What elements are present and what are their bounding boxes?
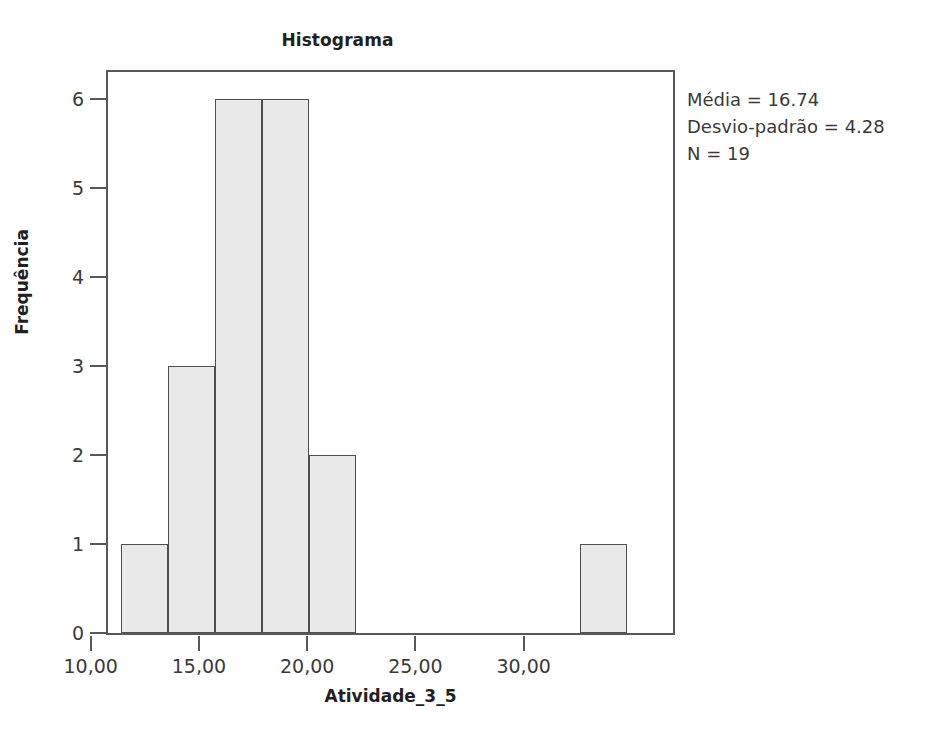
- histogram-figure: Histograma Frequência 0123456 Atividade_…: [0, 0, 927, 741]
- plot-area: [108, 72, 673, 633]
- y-axis-title: Frequência: [12, 182, 32, 382]
- x-axis-tick: [414, 636, 416, 651]
- y-axis-tick: [90, 543, 106, 545]
- x-axis-tick: [306, 636, 308, 651]
- y-axis-tick: [90, 454, 106, 456]
- y-axis-tick-label: 0: [50, 622, 84, 644]
- page-title: Histograma: [0, 30, 675, 50]
- y-axis-tick-label: 3: [50, 355, 84, 377]
- statistics-legend: Média = 16.74 Desvio-padrão = 4.28 N = 1…: [687, 86, 922, 167]
- y-axis-labels: 0123456: [40, 0, 84, 741]
- histogram-bar: [121, 544, 168, 633]
- y-axis-tick: [90, 187, 106, 189]
- histogram-bar: [580, 544, 627, 633]
- histogram-bar: [215, 99, 262, 633]
- histogram-bar: [168, 366, 215, 633]
- y-axis-tick: [90, 98, 106, 100]
- y-axis-tick-label: 4: [50, 266, 84, 288]
- x-axis-tick-label: 10,00: [31, 655, 151, 677]
- histogram-bar: [309, 455, 356, 633]
- x-axis-tick-label: 20,00: [247, 655, 367, 677]
- x-axis-title: Atividade_3_5: [106, 686, 675, 706]
- stat-sample-size: N = 19: [687, 140, 922, 167]
- y-axis-tick: [90, 632, 106, 634]
- stat-std-dev: Desvio-padrão = 4.28: [687, 113, 922, 140]
- x-axis-tick-label: 15,00: [139, 655, 259, 677]
- x-axis-tick-label: 30,00: [464, 655, 584, 677]
- x-axis-tick: [198, 636, 200, 651]
- x-axis-tick: [90, 636, 92, 651]
- y-axis-tick: [90, 276, 106, 278]
- y-axis-tick-label: 2: [50, 444, 84, 466]
- y-axis-tick-label: 1: [50, 533, 84, 555]
- x-axis-tick-label: 25,00: [355, 655, 475, 677]
- histogram-bar: [262, 99, 309, 633]
- y-axis-tick: [90, 365, 106, 367]
- stat-mean: Média = 16.74: [687, 86, 922, 113]
- y-axis-tick-label: 6: [50, 88, 84, 110]
- x-axis-tick: [523, 636, 525, 651]
- y-axis-tick-label: 5: [50, 177, 84, 199]
